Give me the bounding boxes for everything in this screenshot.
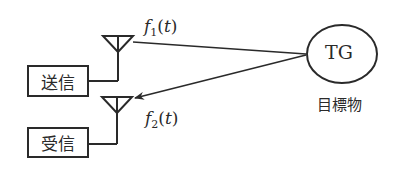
receiver-box: 受信	[27, 127, 89, 158]
transmitter-label: 送信	[41, 69, 75, 94]
target-caption: 目標物	[317, 93, 362, 114]
receiver-label: 受信	[41, 130, 75, 155]
transmitter-box: 送信	[27, 65, 89, 97]
radar-diagram: 送信 受信 f1(t) f2(t) TG 目標物	[0, 0, 405, 175]
transmit-antenna-icon	[103, 36, 133, 81]
incoming-signal-label: f2(t)	[145, 108, 178, 131]
incoming-signal-arrow	[135, 55, 306, 98]
outgoing-signal-label: f1(t)	[144, 16, 177, 39]
receive-antenna-icon	[102, 97, 132, 144]
target-abbr: TG	[325, 41, 353, 63]
outgoing-signal-line	[133, 42, 306, 54]
